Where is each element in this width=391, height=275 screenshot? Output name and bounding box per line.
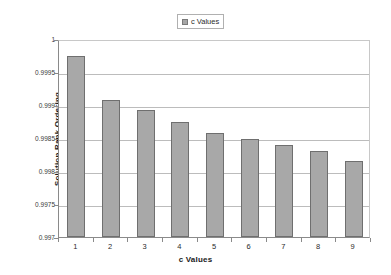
bar-slot: [128, 41, 163, 237]
x-axis-tick-mark: [370, 238, 371, 242]
x-axis-tick-mark: [197, 238, 198, 242]
x-axis-tick-mark: [162, 238, 163, 242]
bar-chart: c Values Solution Rank Ordering 10.99950…: [0, 0, 391, 275]
y-axis-tick-label: 0.997: [39, 235, 55, 242]
bar[interactable]: [345, 161, 363, 237]
bar[interactable]: [67, 56, 85, 238]
bar-slot: [198, 41, 233, 237]
y-axis-tick-label: 0.9975: [35, 202, 55, 209]
x-axis-tick-mark: [301, 238, 302, 242]
x-axis-tick-label: 7: [281, 243, 285, 251]
y-axis-tick-label: 0.9995: [35, 70, 55, 77]
legend-entry-label: c Values: [191, 18, 219, 26]
x-axis-tick-mark: [266, 238, 267, 242]
x-axis-tick-mark: [231, 238, 232, 242]
y-axis-tick-label: 0.9985: [35, 136, 55, 143]
bar[interactable]: [171, 122, 189, 238]
x-axis-tick-label: 3: [143, 243, 147, 251]
bar-slot: [94, 41, 129, 237]
bar[interactable]: [206, 133, 224, 237]
x-axis-tick-label: 5: [212, 243, 216, 251]
x-axis-tick-label: 4: [177, 243, 181, 251]
x-axis-tick-mark: [58, 238, 59, 242]
y-axis-tick-label: 0.999: [39, 103, 55, 110]
x-axis-title: c Values: [0, 255, 391, 264]
plot-area: [58, 40, 370, 238]
bar-slot: [267, 41, 302, 237]
bar-series: [59, 41, 369, 237]
bar[interactable]: [241, 139, 259, 237]
x-axis-tick-label: 2: [108, 243, 112, 251]
x-axis-tick-mark: [127, 238, 128, 242]
bar[interactable]: [310, 151, 328, 237]
bar-slot: [336, 41, 371, 237]
bar-slot: [163, 41, 198, 237]
x-axis-tick-label: 6: [247, 243, 251, 251]
chart-legend: c Values: [177, 14, 224, 29]
x-axis-tick-mark: [93, 238, 94, 242]
x-axis-tick-label: 9: [351, 243, 355, 251]
bar-slot: [302, 41, 337, 237]
x-axis-tick-label: 8: [316, 243, 320, 251]
bar[interactable]: [102, 100, 120, 237]
y-axis-tick-label: 0.998: [39, 169, 55, 176]
x-axis-tick-mark: [335, 238, 336, 242]
bar[interactable]: [275, 145, 293, 237]
bar[interactable]: [137, 110, 155, 237]
bar-slot: [232, 41, 267, 237]
x-axis-tick-label: 1: [73, 243, 77, 251]
bar-slot: [59, 41, 94, 237]
series-color-swatch: [182, 19, 188, 25]
